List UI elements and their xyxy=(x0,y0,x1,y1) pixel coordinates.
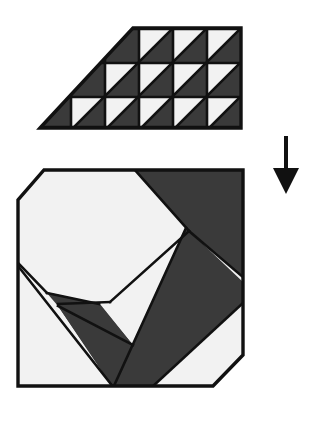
arrow-head xyxy=(273,168,299,194)
quilt-diagram-svg: Quilt block piecing diagram xyxy=(0,0,312,426)
bottom-assembled-block xyxy=(18,169,244,388)
top-pieced-shape xyxy=(20,24,241,130)
downward-process-arrow xyxy=(273,136,299,194)
figure-container: Quilt block piecing diagram xyxy=(0,0,312,426)
